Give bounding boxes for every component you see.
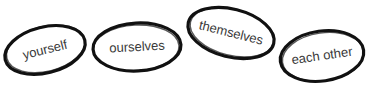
word-label: each other [290, 44, 354, 67]
circled-word-yourself: yourself [0, 17, 90, 82]
word-label: yourself [21, 37, 69, 63]
circled-words-figure: yourself ourselves themselves each other [0, 0, 367, 87]
word-label: ourselves [109, 38, 166, 56]
circled-word-ourselves: ourselves [92, 21, 182, 74]
circled-word-each-other: each other [277, 25, 367, 86]
circled-word-themselves: themselves [183, 0, 280, 67]
word-label: themselves [197, 17, 265, 48]
